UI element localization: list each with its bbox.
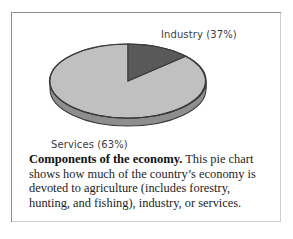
figure-caption: Components of the economy. This pie char… [29,152,267,210]
pie-chart-graphic [11,12,281,147]
pie-chart: Industry (37%) Services (63%) [11,12,281,147]
industry-slice-label: Industry (37%) [161,29,237,41]
caption-lead-in: Components of the economy. [29,152,182,166]
figure-root: Industry (37%) Services (63%) Components… [0,0,293,239]
services-slice-label: Services (63%) [51,139,128,151]
